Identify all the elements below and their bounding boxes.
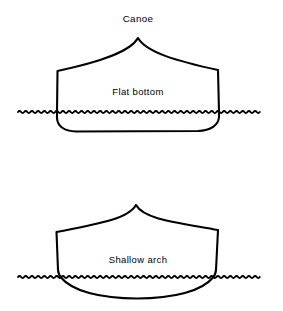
hull-outline-flat-bottom bbox=[57, 38, 219, 132]
hull-outline-shallow-arch bbox=[57, 205, 219, 299]
diagram-shallow-arch: Shallow arch bbox=[18, 205, 260, 299]
waterline-top bbox=[18, 111, 260, 113]
hull-label-flat-bottom: Flat bottom bbox=[112, 86, 163, 97]
waterline-bottom bbox=[18, 276, 260, 278]
diagram-flat-bottom: Canoe Flat bottom bbox=[18, 13, 260, 132]
figure-title: Canoe bbox=[123, 13, 154, 24]
canoe-hull-cross-section-figure: Canoe Flat bottom Shallow arch bbox=[0, 0, 283, 311]
hull-label-shallow-arch: Shallow arch bbox=[109, 254, 168, 265]
